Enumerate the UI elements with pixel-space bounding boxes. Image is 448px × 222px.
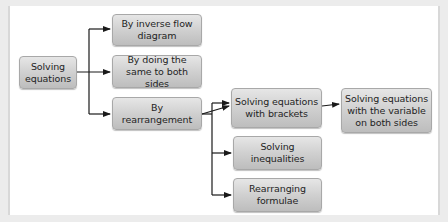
node-inverse-flow-diagram: By inverse flow diagram — [112, 14, 202, 46]
node-equations-with-brackets: Solving equations with brackets — [231, 88, 322, 128]
node-label: Solving equations with the variable on b… — [344, 93, 429, 129]
node-solving-inequalities: Solving inequalities — [233, 136, 322, 170]
node-rearranging-formulae: Rearranging formulae — [233, 178, 322, 212]
node-label: By doing the same to both sides — [115, 54, 199, 90]
node-label: By rearrangement — [115, 102, 199, 126]
node-variable-both-sides: Solving equations with the variable on b… — [341, 88, 432, 133]
node-label: Rearranging formulae — [236, 183, 319, 207]
node-label: Solving inequalities — [236, 141, 319, 165]
node-label: By inverse flow diagram — [115, 18, 199, 42]
node-label: Solving equations with brackets — [234, 96, 319, 120]
node-solving-equations: Solving equations — [19, 56, 77, 89]
node-by-rearrangement: By rearrangement — [112, 97, 202, 130]
node-label: Solving equations — [22, 61, 74, 85]
node-doing-same-both-sides: By doing the same to both sides — [112, 55, 202, 88]
